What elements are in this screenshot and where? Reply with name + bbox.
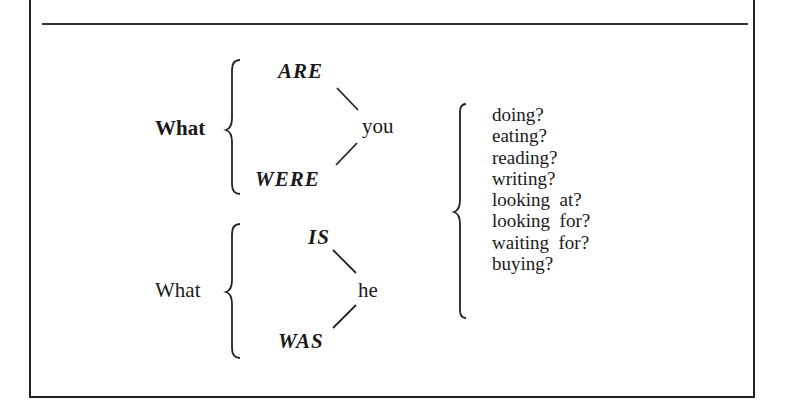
group1-lead-word: What — [155, 118, 205, 139]
list-item: reading? — [492, 147, 590, 168]
list-item: writing? — [492, 168, 590, 189]
group1-lower-verb: WERE — [255, 169, 320, 190]
group2-subject: he — [358, 280, 378, 301]
list-item: waiting for? — [492, 232, 590, 253]
completions-list: doing? eating? reading? writing? looking… — [492, 104, 590, 274]
list-item: eating? — [492, 125, 590, 146]
group1-upper-verb: ARE — [278, 61, 323, 82]
list-item: doing? — [492, 104, 590, 125]
list-item: looking at? — [492, 189, 590, 210]
group2-lead-word: What — [155, 280, 200, 301]
group2-lower-verb: WAS — [278, 331, 324, 352]
list-item: buying? — [492, 253, 590, 274]
list-item: looking for? — [492, 210, 590, 231]
group1-subject: you — [362, 116, 394, 137]
bracket-and-connector-lines — [0, 0, 792, 416]
group2-upper-verb: IS — [308, 227, 330, 248]
